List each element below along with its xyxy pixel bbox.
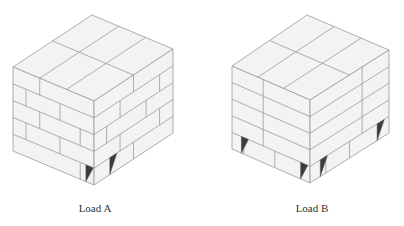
pallet-load-diagram [0, 0, 404, 226]
load-a-label: Load A [35, 202, 155, 214]
load-b-figure [232, 15, 389, 183]
load-a-figure [13, 15, 173, 185]
load-b-label: Load B [252, 202, 372, 214]
